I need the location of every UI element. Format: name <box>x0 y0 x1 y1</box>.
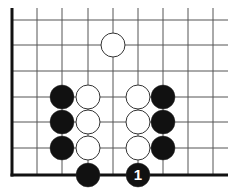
black-stone-move-1: 1 <box>126 163 150 187</box>
grid-lines <box>12 8 228 175</box>
white-stone <box>76 85 100 109</box>
board-edges <box>11 8 229 177</box>
black-stone <box>151 136 175 160</box>
white-stone <box>76 136 100 160</box>
black-stone <box>50 85 74 109</box>
white-stone <box>126 110 150 134</box>
black-stone <box>76 163 100 187</box>
white-stone <box>126 136 150 160</box>
black-stone <box>50 136 74 160</box>
go-board: 1 <box>0 0 232 195</box>
move-number-label: 1 <box>134 166 142 183</box>
black-stone <box>151 85 175 109</box>
white-stone <box>126 85 150 109</box>
black-stone <box>50 110 74 134</box>
white-stone <box>101 33 125 57</box>
black-stone <box>151 110 175 134</box>
white-stone <box>76 110 100 134</box>
